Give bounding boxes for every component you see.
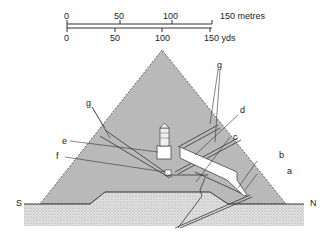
scale-metres-0: 0: [64, 11, 69, 21]
label-a: a: [287, 166, 292, 176]
label-e: e: [62, 136, 67, 146]
scale-yds-50: 50: [110, 33, 120, 43]
kings-chamber: [157, 146, 171, 159]
scale-yds-150: 150 yds: [204, 33, 236, 43]
scale-yds-0: 0: [64, 33, 69, 43]
label-b: b: [279, 150, 284, 160]
label-d: d: [240, 105, 245, 115]
label-south: S: [16, 198, 22, 208]
label-g-left: g: [86, 98, 91, 108]
scale-yds-100: 100: [155, 33, 170, 43]
label-north: N: [310, 198, 317, 208]
label-g-right: g: [217, 60, 222, 70]
scale-metres-50: 50: [114, 11, 124, 21]
scale-bar: 0 50 100 150 metres 0 50 100 150 yds: [64, 11, 266, 43]
pyramid-cross-section-diagram: 0 50 100 150 metres 0 50 100 150 yds: [0, 0, 329, 239]
label-c: c: [233, 132, 238, 142]
scale-metres-100: 100: [163, 11, 178, 21]
scale-metres-150: 150 metres: [220, 11, 266, 21]
label-f: f: [56, 151, 59, 161]
queens-chamber: [165, 170, 171, 175]
